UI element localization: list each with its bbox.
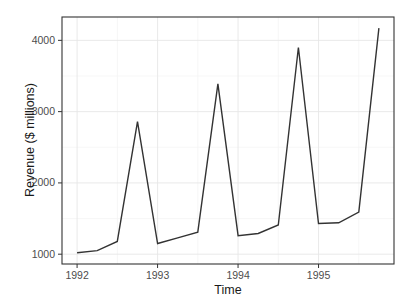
x-tick-label: 1992 — [65, 269, 89, 281]
y-tick-label: 1000 — [32, 248, 56, 260]
panel-background — [62, 17, 394, 264]
revenue-time-series-figure: 19921993199419951000200030004000 Time Re… — [0, 0, 417, 306]
x-tick-label: 1995 — [307, 269, 331, 281]
x-axis-title: Time — [62, 283, 394, 297]
revenue-line-chart: 19921993199419951000200030004000 — [0, 0, 417, 306]
y-axis-title: Revenue ($ millions) — [23, 83, 37, 197]
x-tick-label: 1993 — [146, 269, 170, 281]
x-tick-label: 1994 — [226, 269, 250, 281]
y-tick-label: 4000 — [32, 34, 56, 46]
